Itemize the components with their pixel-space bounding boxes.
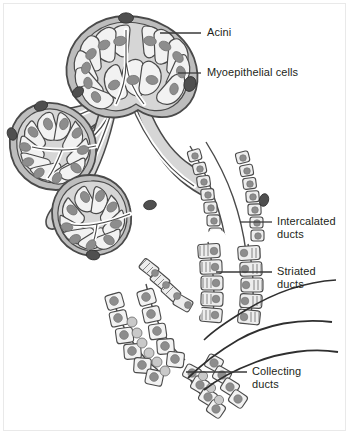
label-striated-ducts: Striated ducts xyxy=(277,265,316,290)
intercalated-duct xyxy=(187,142,270,252)
label-acini: Acini xyxy=(207,26,231,39)
acinus-lower-left xyxy=(52,175,157,261)
acinus-top xyxy=(66,13,197,118)
label-collecting-ducts: Collecting ducts xyxy=(252,365,301,390)
label-myoepithelial-cells: Myoepithelial cells xyxy=(207,66,298,79)
collecting-duct-right xyxy=(182,353,249,419)
diagram-figure: AciniMyoepithelial cellsIntercalated duc… xyxy=(0,0,349,434)
label-intercalated-ducts: Intercalated ducts xyxy=(277,215,336,240)
